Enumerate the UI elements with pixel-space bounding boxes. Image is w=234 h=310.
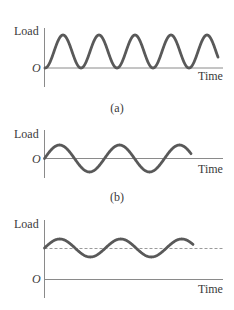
panel-b-y-label: Load	[14, 127, 39, 141]
panel-a-origin-label: O	[32, 61, 41, 75]
panel-a-caption: (a)	[110, 101, 123, 115]
panel-a: Load O Time (a)	[14, 24, 223, 115]
panel-b: Load O Time (b)	[14, 127, 223, 204]
panel-c-y-label: Load	[14, 217, 39, 231]
panel-c: Load O Time	[14, 217, 223, 298]
panel-c-x-label: Time	[198, 282, 223, 296]
panel-a-y-label: Load	[14, 24, 39, 38]
panel-b-origin-label: O	[32, 152, 41, 166]
panel-a-load-curve	[45, 35, 218, 68]
panel-b-caption: (b)	[110, 190, 124, 204]
panel-b-x-label: Time	[198, 162, 223, 176]
panel-a-x-label: Time	[198, 69, 223, 83]
load-time-figure: Load O Time (a) Load O Time (b) Load O T…	[0, 0, 234, 310]
panel-c-origin-label: O	[32, 272, 41, 286]
